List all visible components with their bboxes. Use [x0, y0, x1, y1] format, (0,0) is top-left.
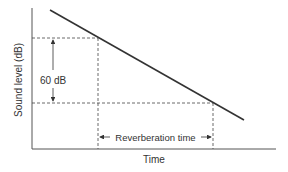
- interval-label: Reverberation time: [115, 132, 195, 143]
- y-axis-label: Sound level (dB): [13, 43, 24, 117]
- decay-line: [50, 10, 244, 120]
- reverberation-diagram: 60 dB Reverberation time Time Sound leve…: [0, 0, 288, 172]
- x-axis-label: Time: [143, 154, 165, 165]
- level-drop-label: 60 dB: [40, 75, 66, 86]
